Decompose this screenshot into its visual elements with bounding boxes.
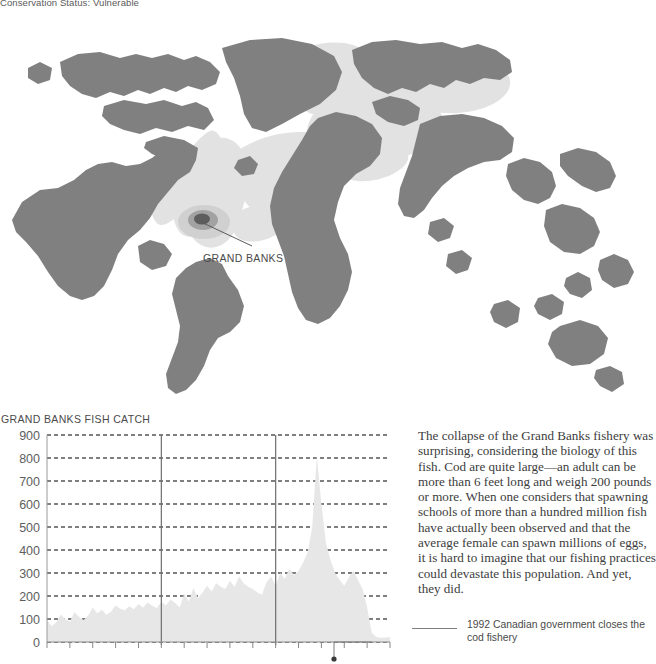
chart-y-axis-labels: 9008007006005004003002001000 xyxy=(19,431,40,650)
svg-text:500: 500 xyxy=(19,521,40,535)
svg-text:300: 300 xyxy=(19,567,40,581)
annotation-leader-line xyxy=(412,628,457,629)
sidenote-paragraph: The collapse of the Grand Banks fishery … xyxy=(401,428,656,596)
chart-plot-svg: 9008007006005004003002001000 xyxy=(0,431,392,664)
grand-banks-highlight xyxy=(178,205,230,239)
world-map-figure: GRAND BANKS xyxy=(0,14,656,404)
svg-text:400: 400 xyxy=(19,544,40,558)
chart-1992-callout xyxy=(331,642,372,662)
landmass-shapes xyxy=(12,38,634,394)
svg-text:200: 200 xyxy=(19,590,40,604)
svg-text:100: 100 xyxy=(19,613,40,627)
svg-text:700: 700 xyxy=(19,475,40,489)
sidenote-block: ← The collapse of the Grand Banks fisher… xyxy=(401,428,656,596)
svg-text:900: 900 xyxy=(19,431,40,443)
fish-catch-chart: GRAND BANKS FISH CATCH 90080070060050040… xyxy=(0,405,392,664)
grand-banks-callout-label: GRAND BANKS xyxy=(203,252,283,264)
svg-text:800: 800 xyxy=(19,452,40,466)
chart-title: GRAND BANKS FISH CATCH xyxy=(1,413,150,425)
annotation-label: 1992 Canadian government closes the cod … xyxy=(467,618,656,645)
conservation-status-label: Conservation Status: Vulnerable xyxy=(0,0,139,8)
svg-text:0: 0 xyxy=(33,636,40,650)
world-map-svg xyxy=(0,14,656,404)
svg-text:600: 600 xyxy=(19,498,40,512)
chart-x-axis-ticks xyxy=(47,642,390,648)
catch-area-series xyxy=(47,456,390,642)
